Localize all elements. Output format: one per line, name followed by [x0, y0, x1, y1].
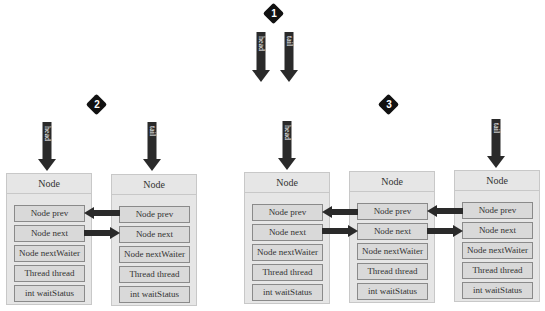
tail-pointer-arrow: tail [280, 32, 298, 82]
step-badge-3-label: 3 [378, 94, 400, 116]
field-thread: Thread thread [14, 265, 85, 282]
prev-link-arrow [322, 206, 358, 218]
node-title: Node [455, 171, 539, 191]
field-prev: Node prev [14, 205, 85, 222]
field-next: Node next [14, 225, 85, 242]
field-prev: Node prev [462, 202, 533, 219]
tail-label: tail [148, 126, 157, 136]
node-box: Node Node prev Node next Node nextWaiter… [454, 170, 540, 302]
field-wait-status: int waitStatus [14, 285, 85, 302]
node-title: Node [112, 175, 196, 195]
field-prev: Node prev [357, 203, 428, 220]
field-next: Node next [462, 222, 533, 239]
field-next-waiter: Node nextWaiter [14, 245, 85, 262]
field-next-waiter: Node nextWaiter [119, 246, 190, 263]
field-next: Node next [357, 223, 428, 240]
field-wait-status: int waitStatus [357, 283, 428, 300]
head-label: head [43, 126, 52, 141]
step-badge-1-label: 1 [263, 3, 285, 25]
prev-link-arrow [427, 205, 463, 217]
head-label: head [257, 36, 266, 51]
node-title: Node [350, 172, 434, 192]
tail-label: tail [285, 36, 294, 46]
field-next-waiter: Node nextWaiter [462, 242, 533, 259]
head-pointer-arrow: head [252, 32, 270, 82]
node-box: Node Node prev Node next Node nextWaiter… [349, 171, 435, 303]
field-next: Node next [119, 226, 190, 243]
field-prev: Node prev [252, 204, 323, 221]
node-title: Node [7, 174, 91, 194]
node-box: Node Node prev Node next Node nextWaiter… [244, 172, 330, 304]
field-wait-status: int waitStatus [252, 284, 323, 301]
field-next-waiter: Node nextWaiter [357, 243, 428, 260]
field-wait-status: int waitStatus [119, 286, 190, 303]
prev-link-arrow [84, 207, 120, 219]
field-next-waiter: Node nextWaiter [252, 244, 323, 261]
field-thread: Thread thread [252, 264, 323, 281]
tail-pointer-arrow: tail [487, 119, 505, 169]
next-link-arrow [427, 225, 463, 237]
next-link-arrow [322, 225, 358, 237]
tail-pointer-arrow: tail [143, 122, 161, 172]
tail-label: tail [492, 123, 501, 133]
node-box: Node Node prev Node next Node nextWaiter… [111, 174, 197, 306]
head-pointer-arrow: head [38, 122, 56, 172]
field-thread: Thread thread [119, 266, 190, 283]
field-next: Node next [252, 224, 323, 241]
head-label: head [283, 125, 292, 140]
field-prev: Node prev [119, 206, 190, 223]
field-thread: Thread thread [357, 263, 428, 280]
head-pointer-arrow: head [278, 121, 296, 171]
step-badge-2-label: 2 [86, 94, 108, 116]
node-box: Node Node prev Node next Node nextWaiter… [6, 173, 92, 305]
next-link-arrow [84, 227, 120, 239]
node-title: Node [245, 173, 329, 193]
field-thread: Thread thread [462, 262, 533, 279]
field-wait-status: int waitStatus [462, 282, 533, 299]
